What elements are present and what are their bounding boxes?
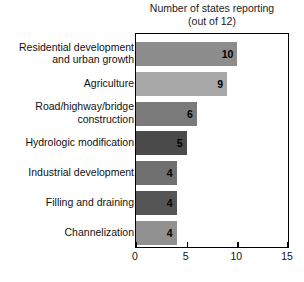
bar: 6 — [136, 102, 197, 126]
bar-value-label: 9 — [217, 79, 223, 90]
bar: 5 — [136, 131, 187, 155]
category-label-line: Road/highway/bridge — [2, 100, 134, 113]
x-axis-tick — [287, 242, 288, 247]
bar: 4 — [136, 191, 177, 215]
bar-value-label: 4 — [167, 198, 173, 209]
x-axis-tick-label: 0 — [132, 250, 138, 262]
category-label: Road/highway/bridgeconstruction — [2, 100, 134, 125]
bar-value-label: 5 — [177, 138, 183, 149]
x-axis-tick — [136, 242, 137, 247]
category-label: Filling and draining — [2, 196, 134, 209]
bar: 4 — [136, 221, 177, 245]
category-label: Residential developmentand urban growth — [2, 41, 134, 66]
bar-value-label: 4 — [167, 228, 173, 239]
category-label-line: Channelization — [2, 226, 134, 239]
bar: 9 — [136, 72, 227, 96]
category-label: Hydrologic modification — [2, 136, 134, 149]
x-axis-tick-label: 15 — [281, 250, 293, 262]
category-label-line: Filling and draining — [2, 196, 134, 209]
bars-layer: 10965444 — [136, 34, 288, 247]
plot-area: 10965444 — [135, 33, 289, 248]
bar-chart: Number of states reporting (out of 12) 1… — [0, 0, 304, 282]
category-label-line: construction — [2, 113, 134, 126]
x-axis-tick-label: 5 — [183, 250, 189, 262]
x-axis-tick-label: 10 — [230, 250, 242, 262]
category-label-line: and urban growth — [2, 53, 134, 66]
category-label-line: Residential development — [2, 41, 134, 54]
bar-value-label: 10 — [222, 49, 234, 60]
bar: 10 — [136, 42, 237, 66]
category-label: Agriculture — [2, 77, 134, 90]
chart-title-line2: (out of 12) — [135, 15, 289, 28]
bar-value-label: 4 — [167, 168, 173, 179]
category-label-line: Agriculture — [2, 77, 134, 90]
x-axis-tick — [187, 242, 188, 247]
category-label: Industrial development — [2, 166, 134, 179]
category-label-line: Industrial development — [2, 166, 134, 179]
chart-title: Number of states reporting (out of 12) — [135, 2, 289, 28]
chart-title-line1: Number of states reporting — [135, 2, 289, 15]
category-label-line: Hydrologic modification — [2, 136, 134, 149]
bar-value-label: 6 — [187, 108, 193, 119]
x-axis-tick — [237, 242, 238, 247]
bar: 4 — [136, 161, 177, 185]
category-label: Channelization — [2, 226, 134, 239]
